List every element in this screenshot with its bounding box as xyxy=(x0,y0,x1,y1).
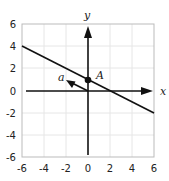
coordinate-plane: 6 4 2 0 -2 -4 -6 -6 -4 -2 0 2 4 6 x y a … xyxy=(0,0,169,181)
svg-text:-6: -6 xyxy=(6,152,16,163)
y-axis-label: y xyxy=(83,9,91,22)
y-tick-labels: 6 4 2 0 -2 -4 -6 xyxy=(6,19,16,163)
x-axis-label: x xyxy=(160,85,167,98)
y-axis-arrow-icon xyxy=(84,26,92,38)
svg-text:0: 0 xyxy=(10,86,16,97)
svg-text:2: 2 xyxy=(10,63,16,74)
vector-label: a xyxy=(58,71,65,84)
svg-text:6: 6 xyxy=(151,163,157,174)
svg-text:-6: -6 xyxy=(17,163,27,174)
point-label: A xyxy=(95,69,104,82)
point-a xyxy=(85,77,92,84)
vector-a xyxy=(66,80,88,91)
x-axis-arrow-icon xyxy=(141,87,153,95)
svg-text:2: 2 xyxy=(107,163,113,174)
svg-text:-4: -4 xyxy=(6,130,16,141)
x-axis xyxy=(26,87,153,95)
svg-text:-2: -2 xyxy=(61,163,71,174)
svg-text:0: 0 xyxy=(85,163,91,174)
svg-text:-2: -2 xyxy=(6,108,16,119)
svg-text:6: 6 xyxy=(10,19,16,30)
svg-text:-4: -4 xyxy=(39,163,49,174)
vector-arrow-icon xyxy=(66,80,76,88)
x-tick-labels: -6 -4 -2 0 2 4 6 xyxy=(17,163,157,174)
svg-text:4: 4 xyxy=(10,41,16,52)
svg-text:4: 4 xyxy=(129,163,135,174)
